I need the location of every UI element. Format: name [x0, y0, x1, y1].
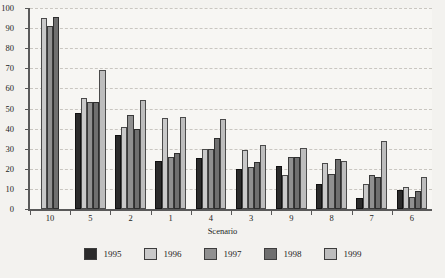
y-axis-tick-mark: [25, 129, 28, 130]
legend-item-label: 1998: [284, 250, 302, 259]
y-axis-tick-mark: [25, 209, 28, 210]
y-axis-tick-mark: [25, 189, 28, 190]
y-axis-tick-mark: [25, 169, 28, 170]
y-axis-tick-label: 100: [0, 4, 14, 13]
bar: [260, 145, 266, 209]
y-axis-tick-label: 80: [0, 44, 14, 53]
legend-item: 1995: [84, 248, 122, 260]
bar: [300, 148, 306, 209]
legend-item: 1997: [204, 248, 242, 260]
bar-group: [41, 8, 59, 209]
legend: 19951996199719981999: [0, 248, 445, 260]
bar: [99, 70, 105, 209]
y-axis-tick-mark: [25, 88, 28, 89]
y-axis-tick-label: 10: [0, 185, 14, 194]
x-axis-tick-mark: [392, 211, 393, 215]
legend-item-label: 1995: [104, 250, 122, 259]
y-axis-tick-label: 0: [0, 205, 14, 214]
bar-group: [236, 8, 267, 209]
legend-item: 1998: [264, 248, 302, 260]
x-axis-tick-label: 7: [357, 214, 387, 223]
x-axis-tick-label: 4: [196, 214, 226, 223]
bar: [220, 119, 226, 209]
bar-group: [196, 8, 227, 209]
x-axis-tick-label: 1: [156, 214, 186, 223]
x-axis-tick-label: 9: [276, 214, 306, 223]
y-axis-tick-mark: [25, 28, 28, 29]
x-axis-tick-label: 5: [75, 214, 105, 223]
bar-group: [115, 8, 146, 209]
x-axis-tick-mark: [231, 211, 232, 215]
x-axis-tick-mark: [311, 211, 312, 215]
bar-group: [155, 8, 186, 209]
x-axis-tick-mark: [110, 211, 111, 215]
bar: [180, 117, 186, 209]
y-axis-tick-label: 70: [0, 64, 14, 73]
legend-item: 1999: [324, 248, 362, 260]
legend-item-label: 1999: [344, 250, 362, 259]
legend-item: 1996: [144, 248, 182, 260]
y-axis-tick-label: 90: [0, 24, 14, 33]
x-axis-tick-mark: [151, 211, 152, 215]
x-axis-title: Scenario: [0, 226, 445, 236]
bar: [341, 161, 347, 209]
y-axis-tick-label: 60: [0, 84, 14, 93]
bar-group: [316, 8, 347, 209]
y-axis-tick-mark: [25, 149, 28, 150]
x-axis-tick-mark: [271, 211, 272, 215]
y-axis-tick-mark: [25, 8, 28, 9]
legend-swatch-1996: [144, 248, 157, 260]
x-axis-tick-label: 2: [116, 214, 146, 223]
x-axis-tick-mark: [352, 211, 353, 215]
y-axis-tick-mark: [25, 109, 28, 110]
bar: [53, 17, 59, 209]
legend-item-label: 1997: [224, 250, 242, 259]
bar-chart: 0102030405060708090100 10521439876 Scena…: [0, 0, 445, 278]
x-axis-tick-label: 6: [397, 214, 427, 223]
y-axis-tick-mark: [25, 68, 28, 69]
y-axis-tick-label: 40: [0, 125, 14, 134]
bar: [140, 100, 146, 209]
bar-group: [397, 8, 428, 209]
bar-group: [356, 8, 387, 209]
bar-group: [75, 8, 106, 209]
bar: [381, 141, 387, 209]
y-axis-tick-mark: [25, 48, 28, 49]
legend-swatch-1998: [264, 248, 277, 260]
x-axis-tick-label: 8: [317, 214, 347, 223]
bar-series-container: [30, 8, 432, 209]
x-axis-tick-mark: [70, 211, 71, 215]
y-axis-tick-label: 20: [0, 165, 14, 174]
x-axis-tick-mark: [30, 211, 31, 215]
legend-swatch-1999: [324, 248, 337, 260]
legend-swatch-1997: [204, 248, 217, 260]
bar-group: [276, 8, 307, 209]
x-axis-tick-label: 3: [236, 214, 266, 223]
y-axis-tick-label: 50: [0, 105, 14, 114]
x-axis-tick-mark: [191, 211, 192, 215]
x-axis-tick-label: 10: [35, 214, 65, 223]
bar: [421, 177, 427, 209]
legend-item-label: 1996: [164, 250, 182, 259]
y-axis-tick-label: 30: [0, 145, 14, 154]
legend-swatch-1995: [84, 248, 97, 260]
